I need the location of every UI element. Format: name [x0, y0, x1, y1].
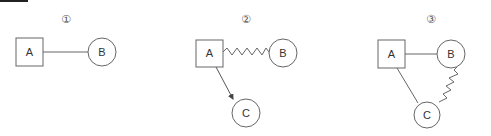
diagram-3-label: ③: [426, 13, 436, 26]
diagram-3: ③ A B C: [378, 13, 465, 128]
node-a-label: A: [26, 46, 34, 58]
node-c-label: C: [423, 109, 431, 121]
node-b-label: B: [98, 46, 105, 58]
node-a-label: A: [388, 48, 396, 60]
node-b-label: B: [447, 48, 454, 60]
diagram-canvas: ① A B ② A B C ③ A B C: [0, 0, 491, 136]
diagram-1: ① A B: [16, 13, 116, 66]
diagram-2: ② A B C: [196, 13, 297, 127]
edge-a-c: [397, 68, 418, 103]
diagram-1-label: ①: [61, 13, 71, 26]
edge-a-b-zigzag: [223, 48, 269, 55]
diagram-2-label: ②: [241, 13, 251, 26]
edge-a-c-arrow: [216, 67, 233, 99]
node-a-label: A: [206, 47, 214, 59]
edge-b-c-zigzag: [439, 67, 458, 102]
node-c-label: C: [242, 107, 250, 119]
node-b-label: B: [279, 47, 286, 59]
